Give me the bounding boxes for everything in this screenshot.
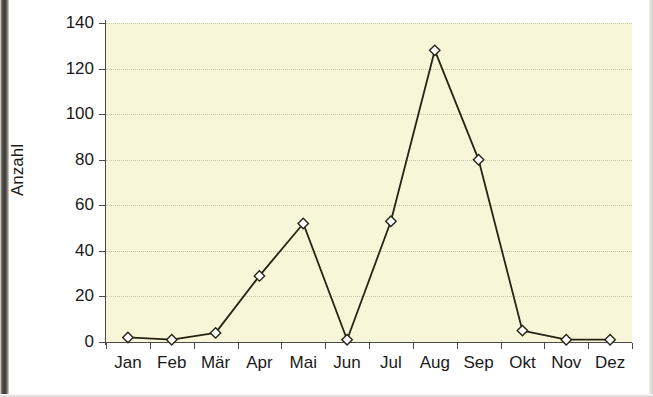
data-point-marker (605, 335, 615, 345)
line-chart: 020406080100120140 JanFebMärAprMaiJunJul… (0, 0, 653, 397)
data-point-marker (167, 335, 177, 345)
data-point-marker (342, 335, 352, 345)
data-series-layer (0, 0, 653, 397)
series-line (128, 50, 610, 339)
data-point-marker (123, 332, 133, 342)
data-point-marker (430, 45, 440, 55)
data-point-marker (473, 155, 483, 165)
data-point-marker (386, 216, 396, 226)
data-point-marker (517, 325, 527, 335)
data-point-marker (561, 335, 571, 345)
